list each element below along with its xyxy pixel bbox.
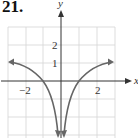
down-arrow-left-icon [55,130,61,138]
y-tick-2: 2 [52,39,58,51]
curve-right [64,62,112,135]
y-axis-label: y [57,0,63,9]
x-axis-arrow-icon [125,78,132,84]
y-axis-arrow-icon [58,10,64,17]
axes [1,13,128,138]
graph: x y −2 2 1 2 [0,0,138,138]
x-axis-label: x [133,74,138,86]
down-arrow-right-icon [61,130,67,138]
x-tick-2: 2 [95,84,101,96]
left-arrow-icon [8,59,14,66]
y-tick-1: 1 [52,57,58,69]
curve-left [10,62,58,135]
x-tick-neg2: −2 [19,84,31,96]
right-arrow-icon [108,59,114,66]
